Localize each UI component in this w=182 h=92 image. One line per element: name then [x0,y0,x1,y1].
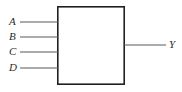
output-label-y: Y [169,39,175,50]
input-label-d: D [9,62,17,73]
input-wires-group [20,22,58,68]
figure-canvas: A B C D Y [0,0,182,92]
input-label-a: A [9,16,16,27]
logic-block-body[interactable] [58,7,124,84]
input-label-c: C [9,46,16,57]
input-label-b: B [9,31,16,42]
logic-diagram [0,0,182,92]
